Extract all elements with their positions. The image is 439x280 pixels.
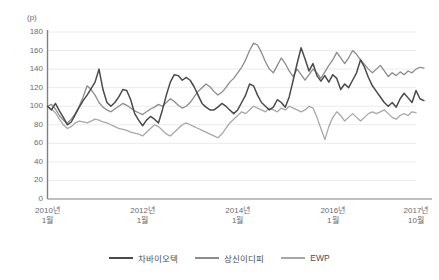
x-tick-month: 1월 <box>225 216 250 226</box>
x-tick-month: 1월 <box>35 216 60 226</box>
x-tick-year: 2014년 <box>225 206 250 215</box>
legend-item-2[interactable]: EWP <box>281 253 329 263</box>
x-tick-year: 2012년 <box>130 206 155 215</box>
legend-label: EWP <box>310 253 329 263</box>
x-tick-label: 2012년1월 <box>130 206 155 226</box>
x-tick-label: 2014년1월 <box>225 206 250 226</box>
x-tick-year: 2010년 <box>35 206 60 215</box>
legend-item-1[interactable]: 상신이디피 <box>195 252 264 264</box>
x-tick-label: 2016년1월 <box>320 206 345 226</box>
x-tick-month: 1월 <box>320 216 345 226</box>
chart-legend: 차바이오텍상신이디피EWP <box>0 252 439 264</box>
legend-swatch-icon <box>195 257 219 259</box>
legend-swatch-icon <box>109 257 133 259</box>
legend-label: 상신이디피 <box>224 252 264 264</box>
legend-swatch-icon <box>281 257 305 259</box>
legend-item-0[interactable]: 차바이오텍 <box>109 252 178 264</box>
legend-label: 차바이오텍 <box>138 252 178 264</box>
x-tick-year: 2016년 <box>320 206 345 215</box>
x-tick-year: 2017년 <box>404 206 429 215</box>
x-axis-tick-labels: 2010년1월2012년1월2014년1월2016년1월2017년10월 <box>0 0 439 280</box>
x-tick-label: 2017년10월 <box>404 206 429 226</box>
x-tick-month: 10월 <box>404 216 429 226</box>
x-tick-label: 2010년1월 <box>35 206 60 226</box>
x-tick-month: 1월 <box>130 216 155 226</box>
chart-container: (p) 020406080100120140160180 2010년1월2012… <box>0 0 439 280</box>
